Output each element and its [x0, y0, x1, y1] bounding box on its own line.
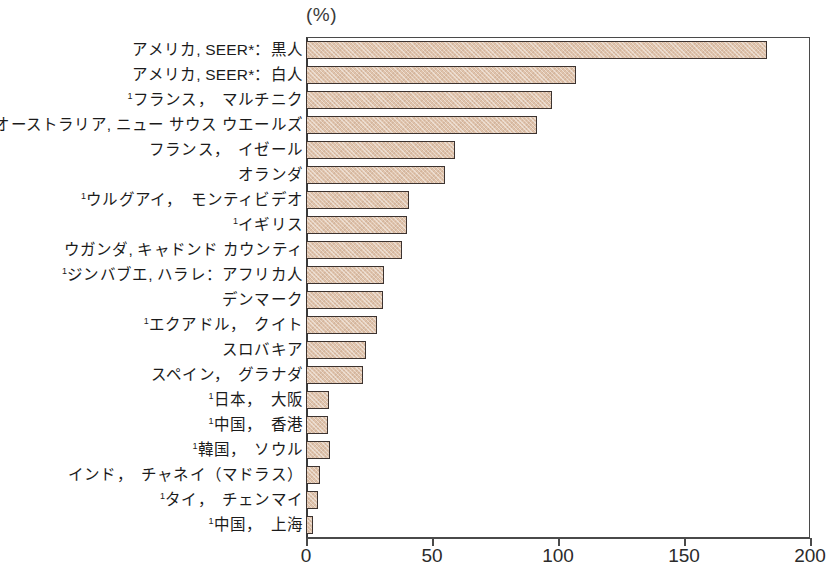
- bar-container: [306, 87, 552, 112]
- bar: [306, 216, 407, 234]
- x-tick-label: 100: [542, 545, 574, 567]
- bar: [306, 241, 402, 259]
- bar-row: 1韓国， ソウル: [0, 438, 834, 463]
- bar-row: 1ウルグアイ， モンティビデオ: [0, 187, 834, 212]
- bar-container: [306, 338, 366, 363]
- bar-row: スペイン， グラナダ: [0, 363, 834, 388]
- bar-rows: アメリカ, SEER*：黒人アメリカ, SEER*：白人1フランス， マルチニク…: [0, 37, 834, 538]
- category-label: 1フランス， マルチニク: [128, 92, 306, 108]
- bar-container: [306, 37, 767, 62]
- bar-row: 1エクアドル， クイト: [0, 313, 834, 338]
- bar: [306, 66, 576, 84]
- bar: [306, 141, 455, 159]
- bar: [306, 516, 313, 534]
- category-label: オランダ: [238, 167, 306, 183]
- bar-container: [306, 463, 320, 488]
- category-label: フランス， イゼール: [149, 142, 306, 158]
- bar: [306, 491, 318, 509]
- bar: [306, 316, 377, 334]
- bar-row: アメリカ, SEER*：黒人: [0, 37, 834, 62]
- bar-container: [306, 187, 409, 212]
- bar: [306, 266, 384, 284]
- category-label: 1日本， 大阪: [209, 392, 306, 408]
- bar-row: 1タイ， チェンマイ: [0, 488, 834, 513]
- bar: [306, 291, 383, 309]
- bar-container: [306, 262, 384, 287]
- bar-row: ウガンダ, キャドンド カウンティ: [0, 237, 834, 262]
- bar: [306, 391, 329, 409]
- bar-container: [306, 388, 329, 413]
- bar: [306, 366, 363, 384]
- x-tick-label: 150: [668, 545, 700, 567]
- bar-row: 1ジンバブエ, ハラレ：アフリカ人: [0, 262, 834, 287]
- bar-container: [306, 363, 363, 388]
- bar-row: インド， チャネイ（マドラス）: [0, 463, 834, 488]
- bar-row: オランダ: [0, 162, 834, 187]
- category-label: ウガンダ, キャドンド カウンティ: [64, 242, 306, 258]
- unit-label: (%): [306, 4, 337, 26]
- category-label: オーストラリア, ニュー サウス ウエールズ: [0, 117, 306, 133]
- bar-row: オーストラリア, ニュー サウス ウエールズ: [0, 112, 834, 137]
- category-label: アメリカ, SEER*：白人: [132, 67, 306, 83]
- bar-row: 1イギリス: [0, 212, 834, 237]
- bar-container: [306, 413, 328, 438]
- category-label: 1ウルグアイ， モンティビデオ: [81, 192, 306, 208]
- bar-container: [306, 162, 445, 187]
- bar-row: 1中国， 香港: [0, 413, 834, 438]
- bar: [306, 41, 767, 59]
- bar: [306, 116, 537, 134]
- x-tick-label: 50: [421, 545, 442, 567]
- bar-container: [306, 488, 318, 513]
- category-label: 1中国， 香港: [209, 417, 306, 433]
- bar-container: [306, 212, 407, 237]
- bar-container: [306, 438, 330, 463]
- bar: [306, 166, 445, 184]
- category-label: 1ジンバブエ, ハラレ：アフリカ人: [62, 267, 306, 283]
- bar: [306, 91, 552, 109]
- category-label: デンマーク: [222, 292, 306, 308]
- bar: [306, 416, 328, 434]
- bar-container: [306, 313, 377, 338]
- category-label: 1中国， 上海: [209, 518, 306, 534]
- bar: [306, 191, 409, 209]
- bar: [306, 341, 366, 359]
- bar-container: [306, 62, 576, 87]
- bar-row: 1日本， 大阪: [0, 388, 834, 413]
- bar: [306, 466, 320, 484]
- bar-row: スロバキア: [0, 338, 834, 363]
- category-label: インド， チャネイ（マドラス）: [68, 468, 306, 484]
- category-label: アメリカ, SEER*：黒人: [132, 42, 306, 58]
- x-tick-label: 200: [794, 545, 826, 567]
- bar-row: 1中国， 上海: [0, 513, 834, 538]
- bar-container: [306, 137, 455, 162]
- bar-container: [306, 513, 313, 538]
- category-label: 1イギリス: [233, 217, 306, 233]
- x-tick-label: 0: [301, 545, 312, 567]
- bar-row: 1フランス， マルチニク: [0, 87, 834, 112]
- category-label: スペイン， グラナダ: [151, 367, 306, 383]
- bar-row: デンマーク: [0, 287, 834, 312]
- category-label: 1エクアドル， クイト: [144, 317, 306, 333]
- bar-container: [306, 287, 383, 312]
- category-label: スロバキア: [222, 342, 306, 358]
- bar-row: フランス， イゼール: [0, 137, 834, 162]
- bar-container: [306, 112, 537, 137]
- bar-container: [306, 237, 402, 262]
- bar-row: アメリカ, SEER*：白人: [0, 62, 834, 87]
- bar: [306, 441, 330, 459]
- bar-chart: (%) アメリカ, SEER*：黒人アメリカ, SEER*：白人1フランス， マ…: [0, 0, 834, 572]
- category-label: 1韓国， ソウル: [192, 443, 306, 459]
- category-label: 1タイ， チェンマイ: [160, 493, 306, 509]
